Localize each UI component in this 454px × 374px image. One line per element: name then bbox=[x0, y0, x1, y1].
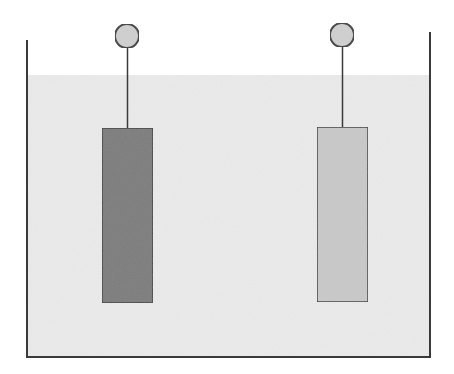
electrode-left-group bbox=[102, 24, 153, 303]
electrode-right-group bbox=[317, 23, 368, 302]
electrode-right-light bbox=[317, 127, 368, 302]
electrode-right-terminal-icon bbox=[330, 23, 354, 47]
electrolyte-solution bbox=[27, 75, 430, 357]
diagram-canvas bbox=[0, 0, 454, 374]
electrode-left-dark bbox=[102, 128, 153, 303]
electrode-left-terminal-icon bbox=[115, 24, 139, 48]
electrochemical-cell-diagram bbox=[0, 0, 454, 374]
